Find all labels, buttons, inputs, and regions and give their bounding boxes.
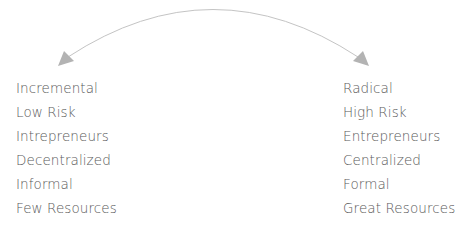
left-column: Incremental Low Risk Intrepreneurs Decen… bbox=[16, 76, 117, 220]
left-item-incremental: Incremental bbox=[16, 76, 117, 100]
right-item-radical: Radical bbox=[343, 76, 455, 100]
right-item-centralized: Centralized bbox=[343, 148, 455, 172]
left-arrowhead-icon bbox=[58, 51, 74, 66]
right-item-entrepreneurs: Entrepreneurs bbox=[343, 124, 455, 148]
right-arrowhead-icon bbox=[353, 51, 369, 66]
right-item-high-risk: High Risk bbox=[343, 100, 455, 124]
left-item-informal: Informal bbox=[16, 172, 117, 196]
left-item-intrepreneurs: Intrepreneurs bbox=[16, 124, 117, 148]
right-column: Radical High Risk Entrepreneurs Centrali… bbox=[343, 76, 455, 220]
right-item-formal: Formal bbox=[343, 172, 455, 196]
left-item-few-resources: Few Resources bbox=[16, 196, 117, 220]
arc-line bbox=[68, 10, 358, 58]
right-item-great-resources: Great Resources bbox=[343, 196, 455, 220]
left-item-decentralized: Decentralized bbox=[16, 148, 117, 172]
left-item-low-risk: Low Risk bbox=[16, 100, 117, 124]
